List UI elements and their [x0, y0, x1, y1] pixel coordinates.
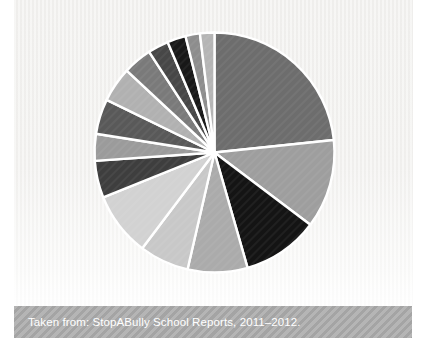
chart-area	[14, 0, 413, 306]
pie-chart	[14, 0, 413, 306]
source-caption-band: Taken from: StopABully School Reports, 2…	[14, 306, 412, 338]
source-caption: Taken from: StopABully School Reports, 2…	[14, 316, 301, 328]
page: Taken from: StopABully School Reports, 2…	[0, 0, 427, 354]
pie-slice-1	[215, 33, 334, 153]
